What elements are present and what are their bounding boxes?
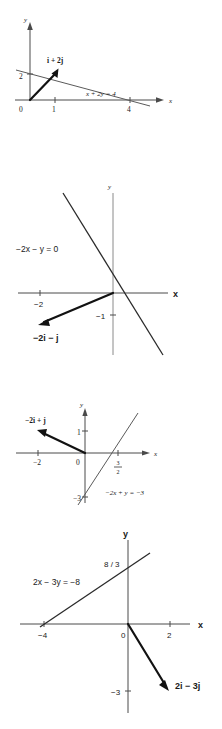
x-tick-label-2: 2 xyxy=(167,631,172,640)
fraction-denominator: 2 xyxy=(117,469,120,475)
vector-2i-minus-3j-arrowhead xyxy=(159,680,169,691)
line-label-x-plus-2y-eq-4: x + 2y = 4 xyxy=(85,90,116,98)
y-tick-label-neg1: −1 xyxy=(96,312,106,321)
vector-label-neg2i-minus-j: −2i − j xyxy=(33,333,59,343)
figures-page: y x 0 1 4 2 i + 2j x + 2y = 4 xyxy=(0,0,222,729)
x-tick-label-0: 0 xyxy=(121,631,126,640)
y-axis-label: y xyxy=(23,16,28,24)
vector-2i-minus-3j-shaft xyxy=(128,624,164,683)
vector-label-2i-minus-3j: 2i − 3j xyxy=(175,681,200,691)
y-tick-label-1: 1 xyxy=(77,428,81,437)
x-tick-label-1: 1 xyxy=(52,105,56,114)
fraction-numerator: 3 xyxy=(117,460,120,466)
y-axis-arrowhead xyxy=(82,408,87,416)
line-label-neg2x-minus-y-eq-0: −2x − y = 0 xyxy=(16,244,59,254)
line-label-2x-minus-3y-eq-neg8: 2x − 3y = −8 xyxy=(33,577,80,587)
vector-neg2i-minus-j-arrowhead xyxy=(38,319,50,326)
x-tick-label-0: 0 xyxy=(76,458,80,467)
x-tick-label-neg4: −4 xyxy=(38,631,48,640)
x-tick-label-4: 4 xyxy=(127,105,131,114)
line-label-neg2x-plus-y-eq-neg3: −2x + y = −3 xyxy=(105,489,145,497)
x-axis-arrowhead xyxy=(142,450,150,455)
line-x-plus-2y-eq-4 xyxy=(16,70,150,106)
y-tick-label-eight-thirds: 8 / 3 xyxy=(104,560,120,569)
y-axis-label: y xyxy=(123,529,128,539)
y-tick-label-2: 2 xyxy=(19,72,23,81)
vector-label-i-plus-2j: i + 2j xyxy=(47,56,64,65)
y-axis-label: y xyxy=(79,401,84,409)
x-axis-label: x xyxy=(173,289,178,299)
x-axis-label: x xyxy=(168,97,173,105)
x-axis-arrowhead xyxy=(156,97,164,103)
x-tick-label-neg2: −2 xyxy=(34,300,44,309)
vector-neg2i-plus-j-arrowhead xyxy=(37,429,47,437)
x-tick-label-0: 0 xyxy=(19,105,23,114)
vector-label-neg2i-plus-j: −2i + j xyxy=(25,416,46,425)
line-2x-minus-3y-eq-neg8 xyxy=(40,553,150,627)
x-tick-label-three-halves: 3 2 xyxy=(114,460,122,475)
x-tick-label-neg2: −2 xyxy=(33,458,41,467)
figure-1-graph: y x 0 1 4 2 i + 2j x + 2y = 4 xyxy=(0,0,222,175)
figure-4-graph: y x −4 0 2 −3 8 / 3 2x − 3y = −8 2i − 3j xyxy=(0,505,222,729)
figure-3-graph: y x −2 0 1 −3 3 2 −2i + j −2 xyxy=(0,355,222,505)
y-axis-label: y xyxy=(107,183,112,191)
figure-2-graph: y x −2 −1 −2x − y = 0 −2i − j xyxy=(0,175,222,355)
x-axis-label: x xyxy=(153,450,158,458)
x-axis-label: x xyxy=(198,620,203,630)
y-tick-label-neg3: −3 xyxy=(111,688,121,697)
y-axis-arrowhead xyxy=(27,22,33,30)
